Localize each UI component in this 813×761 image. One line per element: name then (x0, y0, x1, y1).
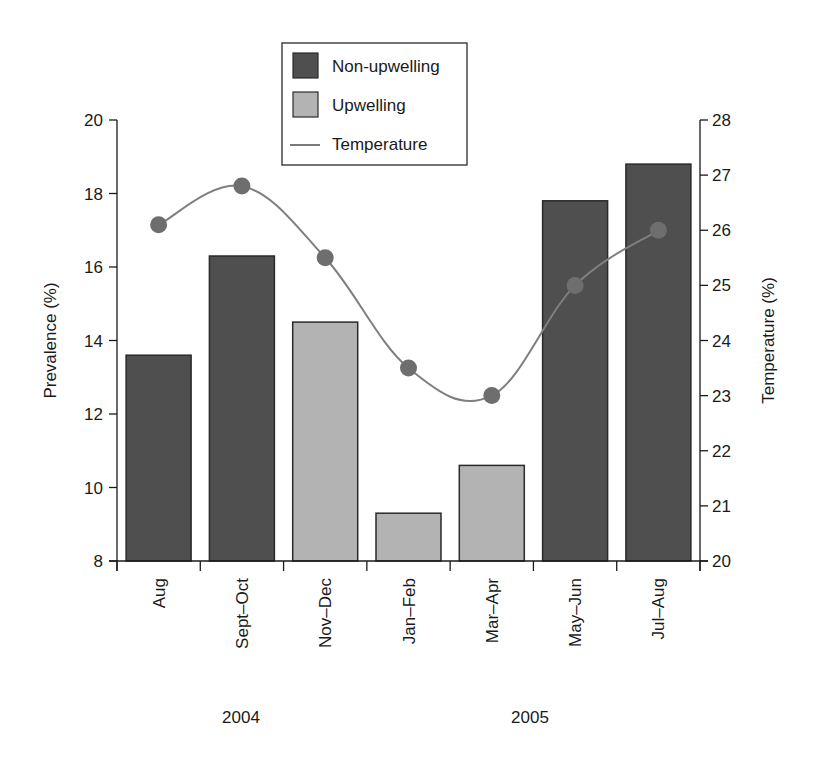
left-axis-tick-label: 20 (84, 111, 103, 130)
bar-sept-oct (209, 256, 274, 561)
chart-canvas: 8101214161820202122232425262728Prevalenc… (0, 0, 813, 761)
left-axis-tick-label: 16 (84, 258, 103, 277)
left-axis-tick-label: 14 (84, 332, 103, 351)
temperature-point (650, 222, 667, 239)
temperature-point (567, 277, 584, 294)
left-axis-tick-label: 18 (84, 185, 103, 204)
legend-swatch-non-upwelling (293, 53, 318, 78)
category-label: Nov–Dec (316, 578, 335, 648)
legend-label: Upwelling (332, 96, 406, 115)
right-axis-tick-label: 26 (712, 221, 731, 240)
legend: Non-upwellingUpwellingTemperature (282, 43, 467, 165)
bar-may-jun (543, 201, 608, 561)
category-labels: AugSept–OctNov–DecJan–FebMar–AprMay–JunJ… (150, 578, 669, 649)
bar-nov-dec (293, 322, 358, 561)
temperature-point (233, 178, 250, 195)
left-axis-title: Prevalence (%) (41, 282, 60, 398)
right-axis-tick-label: 28 (712, 111, 731, 130)
temperature-point (400, 360, 417, 377)
year-label: 2005 (511, 708, 549, 727)
right-axis-title: Temperature (%) (759, 277, 778, 404)
legend-label: Temperature (332, 135, 427, 154)
year-label: 2004 (222, 708, 260, 727)
legend-label: Non-upwelling (332, 57, 440, 76)
temperature-point (317, 249, 334, 266)
left-axis-tick-label: 10 (84, 479, 103, 498)
category-label: Jan–Feb (400, 578, 419, 644)
right-axis-tick-label: 25 (712, 276, 731, 295)
bar-aug (126, 355, 191, 561)
category-label: Sept–Oct (233, 578, 252, 649)
right-axis-tick-label: 23 (712, 387, 731, 406)
left-axis-tick-label: 8 (94, 552, 103, 571)
category-label: Aug (150, 578, 169, 608)
right-axis-tick-label: 22 (712, 442, 731, 461)
legend-swatch-upwelling (293, 92, 318, 117)
right-axis-tick-label: 27 (712, 166, 731, 185)
year-labels: 20042005 (222, 708, 549, 727)
category-label: Mar–Apr (483, 578, 502, 644)
right-axis-tick-label: 21 (712, 497, 731, 516)
temperature-point (483, 387, 500, 404)
category-label: Jul–Aug (649, 578, 668, 639)
left-axis-tick-label: 12 (84, 405, 103, 424)
bar-mar-apr (459, 465, 524, 561)
right-axis-tick-label: 24 (712, 332, 731, 351)
category-label: May–Jun (566, 578, 585, 647)
bar-jan-feb (376, 513, 441, 561)
temperature-point (150, 216, 167, 233)
right-axis-tick-label: 20 (712, 552, 731, 571)
